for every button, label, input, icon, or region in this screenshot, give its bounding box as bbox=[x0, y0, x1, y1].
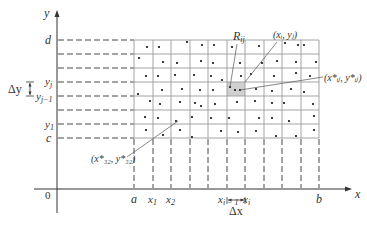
x-tick-xi: xi bbox=[242, 193, 250, 207]
y-tick-yj-1: yj−1 bbox=[35, 90, 53, 104]
leader-sample-32 bbox=[127, 121, 178, 157]
shaded-cell-rij bbox=[227, 82, 245, 96]
x-tick-b: b bbox=[316, 192, 322, 206]
y-tick-y1: y1 bbox=[44, 118, 54, 132]
y-axis-arrow-icon bbox=[55, 10, 60, 17]
x-axis-label: x bbox=[354, 187, 361, 201]
leader-sample-point bbox=[240, 77, 323, 90]
axes bbox=[34, 12, 350, 213]
leader-rij bbox=[230, 44, 237, 87]
x-tick-x1: x1 bbox=[147, 193, 157, 207]
x-axis-arrow-icon bbox=[345, 187, 352, 192]
x-tick-x2: x2 bbox=[165, 193, 175, 207]
origin-label: 0 bbox=[45, 189, 51, 201]
sample-point-label: (x*ᵢⱼ, y*ᵢⱼ) bbox=[324, 72, 362, 84]
leader-corner-point bbox=[245, 42, 277, 82]
y-tick-d: d bbox=[45, 33, 52, 47]
y-tick-c: c bbox=[46, 131, 52, 145]
corner-point-label: (xᵢ, yⱼ) bbox=[273, 29, 298, 41]
riemann-partition-diagram: y x 0 d yj yj−1 y1 c a x1 x2 xi − 1 xi b… bbox=[0, 0, 367, 232]
vertical-dashed-lines bbox=[134, 139, 319, 188]
leader-lines bbox=[127, 42, 323, 157]
y-axis-label: y bbox=[43, 6, 50, 20]
horizontal-dashed-lines bbox=[58, 40, 134, 138]
x-tick-a: a bbox=[131, 192, 137, 206]
rij-label: Rij bbox=[232, 29, 246, 44]
delta-y-arrow-up-icon bbox=[29, 83, 32, 87]
sample-32-label: (x*₃₂, y*₃₂) bbox=[91, 153, 136, 165]
delta-x-label: Δx bbox=[229, 204, 243, 218]
delta-y-arrow-down-icon bbox=[29, 92, 32, 96]
delta-y-label: Δy bbox=[8, 82, 22, 96]
y-tick-yj: yj bbox=[44, 75, 53, 89]
